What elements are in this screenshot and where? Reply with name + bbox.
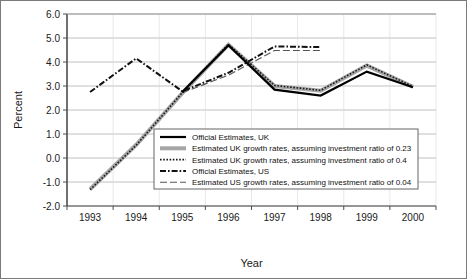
x-axis-tick-label: 1995 xyxy=(171,212,194,223)
x-axis-tick-label: 1999 xyxy=(356,212,379,223)
legend-item[interactable]: Estimated US growth rates, assuming inve… xyxy=(160,178,412,187)
y-axis-tick-label: 1.0 xyxy=(46,129,60,140)
y-axis-tick-label: 4.0 xyxy=(46,57,60,68)
y-axis-tick-label: 5.0 xyxy=(46,33,60,44)
y-axis-tick-label: -1.0 xyxy=(43,177,61,188)
y-axis-tick-label: -2.0 xyxy=(43,201,61,212)
legend-label: Estimated US growth rates, assuming inve… xyxy=(192,178,412,187)
x-axis-tick-label: 1998 xyxy=(310,212,333,223)
y-axis-title: Percent xyxy=(12,91,24,129)
legend-label: Official Estimates, US xyxy=(192,167,269,176)
x-axis-tick-label: 1994 xyxy=(125,212,148,223)
x-axis-title: Year xyxy=(240,257,263,269)
legend-item[interactable]: Estimated UK growth rates, assuming inve… xyxy=(160,156,407,165)
chart-container: 6.05.04.03.02.01.00.0-1.0-2.019931994199… xyxy=(0,0,467,279)
legend-label: Estimated UK growth rates, assuming inve… xyxy=(192,156,407,165)
legend-label: Official Estimates, UK xyxy=(192,133,270,142)
x-axis-tick-label: 1997 xyxy=(263,212,286,223)
y-axis-tick-label: 2.0 xyxy=(46,105,60,116)
x-axis-tick-label: 1993 xyxy=(79,212,102,223)
line-chart: 6.05.04.03.02.01.00.0-1.0-2.019931994199… xyxy=(0,0,467,279)
legend-label: Estimated UK growth rates, assuming inve… xyxy=(192,144,412,153)
y-axis-tick-label: 0.0 xyxy=(46,153,60,164)
x-axis-tick-label: 1996 xyxy=(217,212,240,223)
x-axis-tick-label: 2000 xyxy=(402,212,425,223)
y-axis-tick-label: 3.0 xyxy=(46,81,60,92)
legend-item[interactable]: Estimated UK growth rates, assuming inve… xyxy=(160,144,412,153)
y-axis-tick-label: 6.0 xyxy=(46,9,60,20)
